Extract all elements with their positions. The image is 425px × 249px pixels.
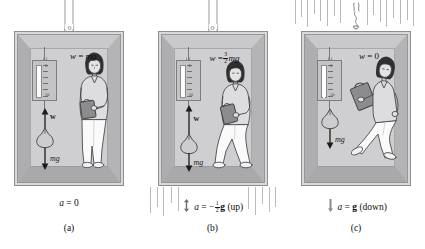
accel-value-c: g bbox=[352, 202, 357, 212]
down-arrow-icon bbox=[325, 199, 335, 213]
accel-symbol-a: a bbox=[59, 198, 64, 208]
elevator-floor bbox=[305, 167, 407, 182]
weight-value-a: mg bbox=[86, 51, 97, 61]
scale-indicator-bar bbox=[323, 67, 325, 98]
accel-equals-c: = bbox=[345, 202, 350, 212]
cable-zone-c bbox=[287, 0, 425, 33]
scale-label-bottom: 50 bbox=[45, 93, 50, 98]
vector-label-mg-b: mg bbox=[194, 159, 204, 167]
weight-value-b: mg bbox=[229, 53, 240, 63]
weight-value-c: 0 bbox=[375, 51, 380, 61]
weight-equation-b: w = 3 2 mg bbox=[210, 52, 240, 64]
scale-label-top: 0 bbox=[330, 64, 332, 69]
elevator-box-c: 0 50 mg bbox=[301, 31, 411, 186]
accel-value-a: 0 bbox=[74, 198, 79, 208]
spring-scale-b: 0 50 bbox=[176, 60, 201, 101]
elevator-box-a: 0 50 w bbox=[14, 31, 124, 186]
weight-symbol-a: w bbox=[70, 51, 76, 61]
elevator-box-b: 0 50 w bbox=[158, 31, 268, 186]
accel-direction-c: (down) bbox=[359, 202, 386, 212]
elevator-apparent-weight-figure: 0 50 w bbox=[0, 0, 425, 249]
elevator-wall-left bbox=[162, 35, 174, 182]
up-down-arrow-icon bbox=[182, 199, 192, 213]
panel-c: 0 50 mg bbox=[287, 0, 425, 249]
weight-symbol-b: w bbox=[210, 53, 216, 63]
scale-top-hanger-icon bbox=[186, 57, 191, 61]
weight-fraction-b: 3 2 bbox=[223, 52, 228, 64]
snapped-cable-icon bbox=[348, 2, 364, 28]
person-figure-a bbox=[70, 51, 116, 173]
panel-letter-a: (a) bbox=[0, 224, 138, 234]
person-figure-b bbox=[210, 59, 262, 173]
panel-b: 0 50 w bbox=[144, 0, 282, 249]
accel-symbol-b: a bbox=[194, 202, 199, 212]
accel-equals-b: = − bbox=[201, 202, 214, 212]
equals-sign-b: = bbox=[218, 53, 223, 63]
accel-symbol-c: a bbox=[337, 202, 342, 212]
elevator-wall-left bbox=[18, 35, 30, 182]
elevator-cable-icon bbox=[65, 0, 74, 26]
acceleration-caption-a: a = 0 bbox=[0, 199, 138, 209]
scale-top-hanger-icon bbox=[42, 57, 47, 61]
acceleration-caption-c: a = g (down) bbox=[287, 197, 425, 213]
elevator-ceiling bbox=[18, 35, 120, 48]
scale-indicator-bar bbox=[38, 67, 40, 81]
spring-scale-c: 0 50 bbox=[317, 60, 342, 101]
vector-label-mg-a: mg bbox=[50, 155, 60, 163]
person-figure-c bbox=[345, 55, 407, 169]
scale-indicator-bar bbox=[182, 67, 184, 89]
acceleration-caption-b: a = − 1 2 g (up) bbox=[144, 197, 282, 214]
panel-letter-b: (b) bbox=[144, 224, 282, 234]
vector-label-w-b: w bbox=[194, 115, 200, 123]
cable-zone-a bbox=[0, 0, 138, 33]
weight-symbol-c: w bbox=[359, 51, 365, 61]
vector-label-w-a: w bbox=[50, 113, 56, 121]
equals-sign-a: = bbox=[78, 51, 83, 61]
fraction-denominator: 2 bbox=[223, 58, 228, 65]
scale-label-top: 0 bbox=[45, 64, 47, 69]
vector-label-mg-c: mg bbox=[335, 136, 345, 144]
elevator-cable-icon bbox=[208, 0, 217, 26]
weight-equation-c: w = 0 bbox=[359, 52, 379, 61]
scale-label-bottom: 50 bbox=[330, 93, 335, 98]
elevator-ceiling bbox=[162, 35, 264, 48]
scale-top-hanger-icon bbox=[327, 57, 332, 61]
spring-scale-a: 0 50 bbox=[32, 60, 57, 101]
scale-label-bottom: 50 bbox=[189, 93, 194, 98]
elevator-wall-left bbox=[305, 35, 317, 182]
scale-face bbox=[36, 65, 42, 98]
cable-zone-b bbox=[144, 0, 282, 33]
accel-value-b: g bbox=[220, 202, 225, 212]
elevator-ceiling bbox=[305, 35, 407, 48]
accel-direction-b: (up) bbox=[227, 202, 243, 212]
scale-label-top: 0 bbox=[189, 64, 191, 69]
scale-face bbox=[321, 65, 327, 98]
panel-a: 0 50 w bbox=[0, 0, 138, 249]
equals-sign-c: = bbox=[367, 51, 372, 61]
panel-letter-c: (c) bbox=[287, 224, 425, 234]
accel-equals-a: = bbox=[66, 198, 71, 208]
scale-face bbox=[180, 65, 186, 98]
weight-equation-a: w = mg bbox=[70, 52, 97, 61]
